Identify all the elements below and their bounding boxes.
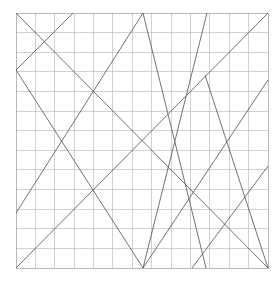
line-plot-canvas: [0, 0, 280, 282]
figure-root: [0, 0, 280, 282]
plot-background: [0, 0, 280, 282]
